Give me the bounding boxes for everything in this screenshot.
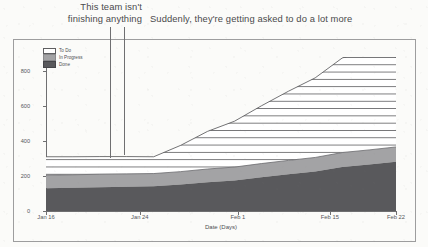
chart-legend: To Do In Progress Done xyxy=(40,47,86,71)
x-tick-mark xyxy=(140,212,141,215)
burnup-chart-screenshot: This team isn't finishing anything Sudde… xyxy=(0,0,428,247)
callout-line-left xyxy=(110,27,111,158)
legend-item-in-progress: In Progress xyxy=(43,55,83,60)
legend-item-to-do: To Do xyxy=(43,48,83,53)
legend-label-in-progress: In Progress xyxy=(59,55,83,60)
y-tick-label: 800 xyxy=(21,68,30,74)
legend-label-done: Done xyxy=(59,62,70,67)
x-tick-mark xyxy=(396,212,397,215)
x-axis-line xyxy=(46,211,397,212)
stacked-area-series xyxy=(46,57,396,211)
annotation-line-2: finishing anything xyxy=(36,13,142,25)
legend-label-to-do: To Do xyxy=(59,48,71,53)
annotation-asked-to-do-more: Suddenly, they're getting asked to do a … xyxy=(150,13,352,25)
callout-line-right xyxy=(124,27,125,155)
legend-swatch-in-progress xyxy=(43,54,56,60)
y-tick-label: 400 xyxy=(21,138,30,144)
x-axis-label: Date (Days) xyxy=(205,224,237,230)
legend-item-done: Done xyxy=(43,62,83,67)
y-tick-label: 600 xyxy=(21,103,30,109)
plot-area xyxy=(46,57,396,211)
annotation-team-not-finishing: This team isn't finishing anything xyxy=(36,1,142,26)
legend-swatch-done xyxy=(43,61,56,67)
legend-swatch-to-do xyxy=(43,48,56,54)
x-tick-mark xyxy=(46,212,47,215)
x-tick-mark xyxy=(238,212,239,215)
y-tick-label: 200 xyxy=(21,173,30,179)
x-tick-mark xyxy=(330,212,331,215)
y-tick-label: 0 xyxy=(27,208,30,214)
annotation-line-1: This team isn't xyxy=(36,1,142,13)
